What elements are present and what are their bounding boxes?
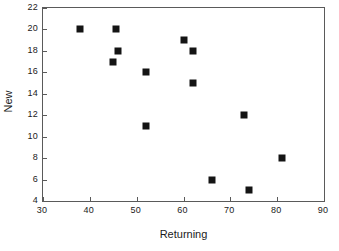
y-axis-tick-label: 8 <box>8 153 38 162</box>
y-axis-tick <box>43 72 47 73</box>
x-axis-tick-label: 90 <box>308 206 338 215</box>
y-axis-tick <box>43 180 47 181</box>
y-axis-tick-label: 20 <box>8 24 38 33</box>
x-axis-tick <box>137 197 138 201</box>
y-axis-tick <box>43 115 47 116</box>
data-point-marker <box>189 80 196 87</box>
y-axis-tick-label: 22 <box>8 3 38 12</box>
plot-area <box>42 7 325 202</box>
x-axis-tick-label: 30 <box>27 206 57 215</box>
data-point-marker <box>143 69 150 76</box>
data-point-marker <box>189 47 196 54</box>
data-point-marker <box>180 37 187 44</box>
x-axis-tick <box>324 197 325 201</box>
x-axis-tick <box>277 197 278 201</box>
data-point-marker <box>77 26 84 33</box>
y-axis-tick <box>43 29 47 30</box>
x-axis-tick-label: 80 <box>261 206 291 215</box>
x-axis-tick-label: 60 <box>168 206 198 215</box>
data-point-marker <box>241 112 248 119</box>
y-axis-tick-label: 6 <box>8 174 38 183</box>
y-axis-tick <box>43 94 47 95</box>
y-axis-tick-label: 4 <box>8 196 38 205</box>
x-axis-tick-label: 50 <box>121 206 151 215</box>
x-axis-tick-labels: 30405060708090 <box>42 206 325 218</box>
x-axis-tick <box>43 197 44 201</box>
x-axis-tick <box>184 197 185 201</box>
y-axis-tick <box>43 201 47 202</box>
y-axis-tick <box>43 137 47 138</box>
y-axis-tick <box>43 8 47 9</box>
x-axis-tick-label: 70 <box>214 206 244 215</box>
data-point-marker <box>278 155 285 162</box>
x-axis-tick <box>230 197 231 201</box>
data-point-marker <box>208 176 215 183</box>
data-point-marker <box>110 58 117 65</box>
y-axis-tick <box>43 158 47 159</box>
data-point-marker <box>114 47 121 54</box>
data-point-marker <box>246 187 253 194</box>
data-point-marker <box>143 122 150 129</box>
y-axis-tick-label: 10 <box>8 131 38 140</box>
scatter-chart: 46810121416182022 30405060708090 Returni… <box>0 0 339 251</box>
x-axis-title: Returning <box>42 228 325 241</box>
y-axis-tick-label: 18 <box>8 45 38 54</box>
y-axis-tick <box>43 51 47 52</box>
y-axis-title: New <box>2 72 15 132</box>
x-axis-tick <box>90 197 91 201</box>
x-axis-tick-label: 40 <box>74 206 104 215</box>
data-point-marker <box>112 26 119 33</box>
